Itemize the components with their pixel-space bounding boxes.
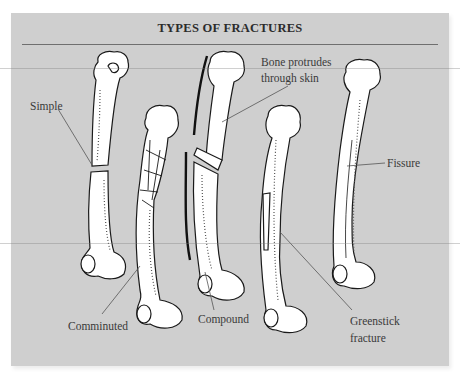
label-simple: Simple [30,98,63,114]
label-compound: Compound [198,311,249,327]
bone-simple [81,51,129,278]
label-greenstick-1: Greenstick [350,313,400,329]
scan-artifact-line [0,243,460,244]
label-bone-protrudes-2: through skin [261,70,319,86]
bone-fissure [332,60,380,289]
label-fissure: Fissure [387,155,420,171]
leader-simple [58,109,92,165]
label-greenstick-2: fracture [350,330,386,346]
label-comminuted: Comminuted [68,318,128,334]
scan-artifact-line [0,68,460,69]
bone-comminuted [136,106,182,329]
label-bone-protrudes-1: Bone protrudes [261,54,332,70]
bone-compound [193,51,244,300]
bone-greenstick [260,105,306,332]
